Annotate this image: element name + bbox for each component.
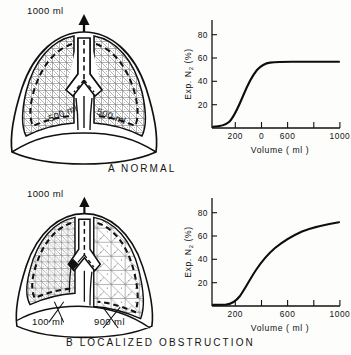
chart-a-xlabel: Volume ( ml ) — [251, 145, 309, 155]
svg-text:Exp. N2 (%): Exp. N2 (%) — [183, 226, 194, 278]
right-lung-field — [94, 217, 143, 318]
chart-b-ytick-60: 60 — [198, 231, 208, 241]
chart-b-xtick-600: 600 — [280, 309, 295, 319]
chart-b-xtick-1000: 1000 — [330, 309, 351, 319]
chart-a-ytick-60: 60 — [198, 53, 208, 63]
chart-a-ytick-20: 20 — [198, 100, 208, 110]
chart-a-xtick-600: 600 — [280, 131, 295, 141]
svg-text:Exp. N2 (%): Exp. N2 (%) — [183, 48, 194, 100]
chart-b-xlabel: Volume ( ml ) — [251, 323, 309, 333]
chart-b-ylabel-main: Exp. N — [183, 248, 193, 277]
chart-b-x-ticks — [235, 300, 340, 306]
chart-a-ytick-40: 40 — [198, 76, 208, 86]
panel-a-chart: 20 40 60 80 200 0 600 1000 Volume ( ml )… — [180, 8, 351, 168]
panel-a-caption: A NORMAL — [108, 163, 176, 174]
chart-a-ytick-80: 80 — [198, 30, 208, 40]
chart-a-ylabel-main: Exp. N — [183, 70, 193, 99]
chart-b-curve — [213, 222, 339, 305]
chart-b-xtick-200: 200 — [228, 309, 243, 319]
panel-a-normal: 1000 ml — [0, 0, 180, 180]
panel-b-lung-diagram — [0, 193, 180, 343]
panel-b-left-lung-volume-label: 100 ml — [32, 316, 63, 327]
panel-b-chart: 20 40 60 80 200 600 1000 Volume ( ml ) E… — [180, 186, 351, 346]
chart-a-xtick-1000: 1000 — [330, 131, 351, 141]
chart-b-ytick-80: 80 — [198, 208, 208, 218]
chart-a-y-ticks — [212, 35, 217, 105]
panel-a-lung-diagram: 500 ml 500 ml — [0, 10, 180, 170]
chart-a-ylabel: Exp. N2 (%) — [183, 48, 194, 100]
chart-a-xtick-400: 0 — [259, 131, 264, 141]
chart-b-ytick-20: 20 — [198, 278, 208, 288]
chart-a-xtick-200: 200 — [228, 131, 243, 141]
chart-b-y-ticks — [212, 213, 217, 283]
panel-b-right-lung-volume-label: 900 ml — [94, 316, 125, 327]
chart-b-ylabel: Exp. N2 (%) — [183, 226, 194, 278]
panel-b-localized-obstruction: 1000 ml — [0, 185, 180, 355]
chart-a-curve — [213, 62, 339, 127]
chart-b-ytick-40: 40 — [198, 254, 208, 264]
chart-a-ylabel-unit: (%) — [183, 48, 193, 63]
chart-a-x-ticks — [235, 122, 340, 128]
chart-b-ylabel-unit: (%) — [183, 226, 193, 241]
